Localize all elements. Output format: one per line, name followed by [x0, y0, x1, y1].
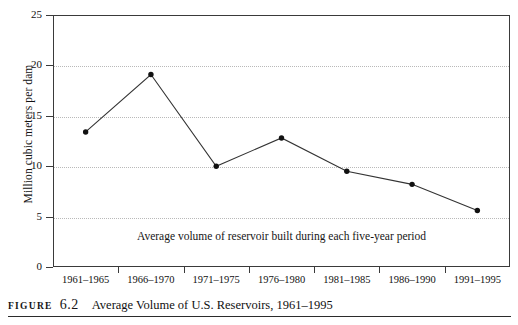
figure-caption: FIGURE 6.2 Average Volume of U.S. Reserv… [8, 297, 513, 313]
data-point: 1966–1970: 19.1 [148, 72, 153, 77]
data-series: 1961–1965: 13.41966–1970: 19.11971–1975:… [0, 0, 518, 325]
data-point: 1971–1975: 10 [214, 164, 219, 169]
data-point: 1986–1990: 8.2 [409, 182, 414, 187]
data-point: 1976–1980: 12.8 [279, 135, 284, 140]
caption-figure-word: FIGURE [8, 301, 53, 311]
figure-container: Million cubic meters per dam 0510152025 … [0, 0, 518, 325]
series-line [86, 74, 478, 210]
caption-figure-title: Average Volume of U.S. Reservoirs, 1961–… [92, 298, 333, 313]
caption-figure-number: 6.2 [60, 297, 79, 313]
caption-divider [8, 316, 511, 317]
plot-annotation: Average volume of reservoir built during… [53, 230, 510, 242]
data-point: 1981–1985: 9.5 [344, 169, 349, 174]
data-point: 1991–1995: 5.6 [475, 208, 480, 213]
data-point: 1961–1965: 13.4 [83, 129, 88, 134]
